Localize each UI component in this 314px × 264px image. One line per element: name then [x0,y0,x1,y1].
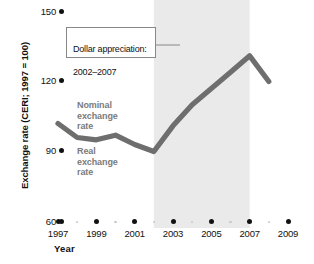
nominal-label-line2: exchange [77,111,118,122]
x-tick-dot-1997 [56,219,61,224]
y-tick-label-150: 150 [30,6,56,17]
real-label-line2: exchange [77,157,118,168]
x-tick-label-2003: 2003 [156,228,190,239]
real-exchange-rate-label: Real exchange rate [77,146,118,178]
x-tick-label-2009: 2009 [271,228,305,239]
x-minor-tick-dot-2000 [114,221,117,224]
y-tick-label-60: 60 [30,216,56,227]
x-tick-label-2007: 2007 [233,228,267,239]
callout-line-1: Dollar appreciation: [73,44,150,56]
x-minor-tick-dot-2002 [153,221,156,224]
real-label-line3: rate [77,167,118,178]
x-tick-label-1997: 1997 [41,228,75,239]
real-label-line1: Real [77,146,118,157]
shaded-region-dollar-appreciation [154,0,250,228]
nominal-label-line1: Nominal [77,100,118,111]
y-tick-dot-150 [59,9,64,14]
x-tick-dot-2009 [286,219,291,224]
exchange-rate-chart: Exchange rate (CERI; 1997 = 100) 150 120… [0,0,314,264]
dollar-appreciation-callout: Dollar appreciation: 2002–2007 [66,27,156,58]
x-tick-dot-2003 [171,219,176,224]
x-minor-tick-dot-2008 [268,221,271,224]
x-axis-title: Year [54,243,75,254]
x-tick-dot-1999 [94,219,99,224]
y-tick-label-120: 120 [30,75,56,86]
nominal-label-line3: rate [77,121,118,132]
x-tick-label-2005: 2005 [194,228,228,239]
nominal-exchange-rate-label: Nominal exchange rate [77,100,118,132]
x-tick-label-1999: 1999 [79,228,113,239]
callout-line-2: 2002–2007 [73,67,150,79]
y-axis-title: Exchange rate (CERI; 1997 = 100) [19,26,30,206]
y-tick-dot-120 [59,78,64,83]
y-tick-label-90: 90 [30,145,56,156]
x-minor-tick-dot-2006 [229,221,232,224]
x-tick-dot-2005 [209,219,214,224]
y-tick-dot-90 [59,148,64,153]
x-tick-label-2001: 2001 [118,228,152,239]
